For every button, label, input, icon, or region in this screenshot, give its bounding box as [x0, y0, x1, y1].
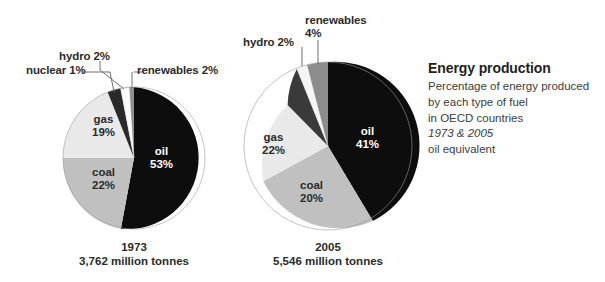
slice-label-gas-2005-pct: 22% — [262, 144, 285, 157]
caption-1973-amount: 3,762 million tonnes — [44, 254, 224, 268]
caption-2005-year: 2005 — [238, 240, 418, 254]
slice-label-coal-2005: coal 20% — [300, 179, 323, 205]
callout-label-renewables-1973: renewables 2% — [137, 64, 218, 77]
slice-label-oil-1973: oil 53% — [150, 145, 173, 171]
description-line-5: oil equivalent — [428, 142, 600, 158]
slice-label-oil-1973-name: oil — [150, 145, 173, 158]
pie-2005-leader-lines — [302, 40, 318, 66]
slice-label-gas-2005: gas 22% — [262, 131, 285, 157]
callout-label-hydro-1973: hydro 2% — [59, 50, 110, 63]
slice-label-oil-2005-name: oil — [356, 125, 379, 138]
chart-canvas: nuclear 1% hydro 2% renewables 2% hydro … — [0, 0, 605, 282]
description-line-2: by each type of fuel — [428, 95, 600, 111]
slice-label-coal-2005-name: coal — [300, 179, 323, 192]
callout-label-hydro-2005: hydro 2% — [243, 36, 294, 49]
description-block: Energy production Percentage of energy p… — [428, 60, 600, 158]
slice-label-oil-1973-pct: 53% — [150, 158, 173, 171]
chart-title: Energy production — [428, 60, 600, 77]
callout-renewables-pct-2005: 4% — [305, 27, 321, 39]
slice-label-coal-1973-pct: 22% — [92, 179, 115, 192]
caption-1973: 1973 3,762 million tonnes — [44, 240, 224, 269]
caption-1973-year: 1973 — [44, 240, 224, 254]
callout-renewables-name-2005: renewables — [305, 14, 367, 26]
description-line-4-years: 1973 & 2005 — [428, 126, 600, 142]
slice-label-oil-2005: oil 41% — [356, 125, 379, 151]
callout-label-nuclear-1973: nuclear 1% — [26, 64, 86, 77]
slice-label-gas-2005-name: gas — [262, 131, 285, 144]
slice-label-coal-1973-name: coal — [92, 166, 115, 179]
leader-line-nuclear-1973 — [83, 72, 114, 92]
slice-label-oil-2005-pct: 41% — [356, 138, 379, 151]
caption-2005-amount: 5,546 million tonnes — [238, 254, 418, 268]
slice-label-coal-2005-pct: 20% — [300, 192, 323, 205]
leader-line-hydro-1973 — [100, 61, 124, 89]
caption-2005: 2005 5,546 million tonnes — [238, 240, 418, 269]
callout-label-renewables-2005: renewables 4% — [305, 14, 377, 40]
pie-1973 — [63, 87, 205, 229]
slice-label-gas-1973: gas 19% — [92, 113, 115, 139]
slice-label-gas-1973-name: gas — [92, 113, 115, 126]
slice-label-coal-1973: coal 22% — [92, 166, 115, 192]
slice-label-gas-1973-pct: 19% — [92, 126, 115, 139]
description-line-1: Percentage of energy produced — [428, 79, 600, 95]
description-line-3: in OECD countries — [428, 111, 600, 127]
